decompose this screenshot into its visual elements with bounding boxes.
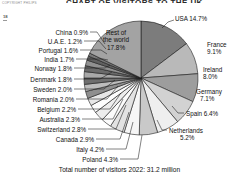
slice-label-ireland-value: 8.0% (203, 73, 217, 80)
slice-label-switzerland: Switzerland 2.8% (0, 126, 86, 133)
slice-label-poland: Poland 4.3% (0, 156, 118, 163)
slice-label-france-value: 9.1% (207, 48, 221, 55)
slice-label-australia: Australia 2.3% (0, 116, 80, 123)
slice-label-germany-value: 7.1% (200, 95, 214, 102)
chart-total-caption: Total number of visitors 2022: 31.2 mill… (0, 166, 239, 173)
slice-label-spain: Spain 6.4% (186, 110, 218, 117)
leader-line-poland (120, 135, 142, 159)
chart-page: COPYRIGHT PHILIPS CHART OF VISITORS TO T… (0, 0, 239, 180)
slice-label-portugal: Portugal 1.6% (0, 47, 78, 54)
slice-label-italy: Italy 4.2% (0, 146, 104, 153)
slice-label-rest-of-world: Rest of the world 17.8% (92, 29, 140, 51)
rest-of-world-line1: Rest of (92, 29, 140, 36)
slice-label-belgium: Belgium 2.2% (0, 106, 76, 113)
rest-of-world-value: 17.8% (92, 44, 140, 51)
slice-label-denmark: Denmark 1.8% (0, 76, 72, 83)
slice-label-india: India 1.7% (0, 56, 74, 63)
slice-label-canada: Canada 2.9% (0, 136, 94, 143)
slice-label-usa: USA 14.7% (175, 15, 207, 22)
rest-of-world-line2: the world (92, 36, 140, 43)
slice-label-romania: Romania 2.0% (0, 96, 74, 103)
slice-label-sweden: Sweden 2.0% (0, 86, 72, 93)
slice-label-china: China 0.9% (0, 29, 88, 36)
slice-label-norway: Norway 1.8% (0, 65, 72, 72)
slice-label-netherlands-value: 5.2% (180, 134, 194, 141)
slice-label-uae: U.A.E. 1.2% (0, 38, 82, 45)
